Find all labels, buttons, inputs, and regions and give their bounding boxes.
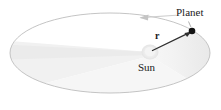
- radius-vector-label: r: [155, 31, 159, 41]
- planet-marker: [189, 28, 196, 35]
- planet-label: Planet: [176, 7, 204, 18]
- sun-body: [142, 45, 159, 60]
- sun-core: [145, 47, 155, 56]
- orbit-diagram-figure: Planet Sun r: [0, 0, 221, 110]
- swept-area-group: [0, 18, 221, 100]
- sun-label: Sun: [138, 62, 155, 73]
- planet-label-leader-line: [189, 22, 192, 28]
